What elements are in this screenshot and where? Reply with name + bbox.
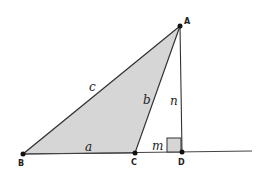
label-b: B: [18, 159, 24, 168]
side-label-n: n: [170, 94, 178, 108]
triangle-diagram: A B C D a b c n m: [0, 0, 262, 171]
point-b: [21, 152, 26, 157]
label-d: D: [178, 158, 185, 167]
side-label-c: c: [89, 80, 96, 94]
right-angle-marker: [167, 138, 181, 152]
side-label-m: m: [152, 139, 163, 153]
label-a: A: [184, 17, 191, 26]
diagram-svg: A B C D a b c n m: [0, 0, 262, 171]
point-d: [180, 150, 185, 155]
altitude-ad: [180, 26, 182, 152]
point-c: [133, 151, 138, 156]
label-c: C: [131, 158, 137, 167]
shaded-triangle-abc: [23, 26, 180, 154]
side-label-a: a: [85, 140, 92, 154]
point-a: [178, 24, 183, 29]
side-label-b: b: [143, 93, 151, 107]
